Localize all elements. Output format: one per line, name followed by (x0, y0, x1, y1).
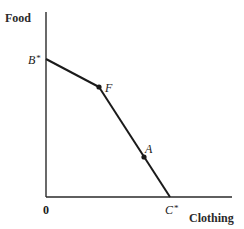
point-b-star: * (36, 53, 41, 63)
y-axis-label: Food (5, 12, 31, 24)
point-f-label: F (105, 82, 112, 94)
point-b-letter: B (28, 53, 35, 67)
point-f-marker (96, 84, 101, 89)
point-c-letter: C (165, 203, 173, 217)
diagram-canvas (0, 0, 244, 229)
point-a-label: A (145, 143, 152, 155)
point-c-star-label: C* (165, 204, 179, 216)
point-b-star-label: B* (28, 54, 41, 66)
frontier-segment-b-f (46, 59, 99, 87)
origin-label: 0 (43, 204, 49, 216)
x-axis-label: Clothing (189, 212, 234, 224)
frontier-segment-f-c (99, 87, 170, 197)
point-c-star: * (174, 203, 179, 213)
